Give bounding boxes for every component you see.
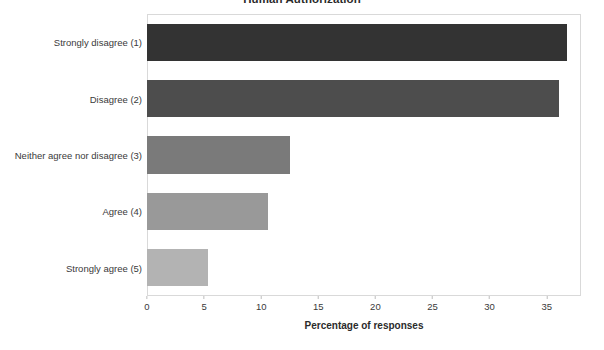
x-axis-tick-label: 30 [484, 301, 495, 312]
x-axis-tick-25: 25 [427, 296, 438, 312]
y-axis-label-2: Disagree (2) [0, 93, 142, 104]
x-axis-ticks: 05101520253035 [147, 296, 581, 316]
bar-row [147, 193, 581, 230]
bar-series [147, 14, 581, 296]
tick-mark-icon [432, 296, 433, 299]
bar-row [147, 24, 581, 61]
x-axis-tick-label: 5 [201, 301, 206, 312]
bar-2 [147, 80, 559, 117]
bar-row [147, 249, 581, 286]
y-axis-label-3: Neither agree nor disagree (3) [0, 150, 142, 161]
x-axis-tick-label: 35 [541, 301, 552, 312]
bar-4 [147, 193, 268, 230]
chart-title: Human Authorization [0, 0, 604, 5]
tick-mark-icon [489, 296, 490, 299]
x-axis-tick-label: 10 [256, 301, 267, 312]
tick-mark-icon [204, 296, 205, 299]
bar-5 [147, 249, 208, 286]
x-axis-tick-10: 10 [256, 296, 267, 312]
x-axis-tick-label: 20 [370, 301, 381, 312]
x-axis-tick-20: 20 [370, 296, 381, 312]
bar-row [147, 80, 581, 117]
x-axis-title: Percentage of responses [147, 320, 581, 331]
y-axis-label-5: Strongly agree (5) [0, 262, 142, 273]
tick-mark-icon [318, 296, 319, 299]
x-axis-tick-label: 15 [313, 301, 324, 312]
x-axis-tick-label: 25 [427, 301, 438, 312]
bar-row [147, 136, 581, 173]
x-axis-tick-label: 0 [144, 301, 149, 312]
tick-mark-icon [146, 296, 147, 299]
x-axis-tick-0: 0 [144, 296, 149, 312]
tick-mark-icon [261, 296, 262, 299]
bar-1 [147, 24, 567, 61]
y-axis-label-1: Strongly disagree (1) [0, 37, 142, 48]
bar-3 [147, 136, 290, 173]
x-axis-tick-5: 5 [201, 296, 206, 312]
tick-mark-icon [375, 296, 376, 299]
x-axis-tick-30: 30 [484, 296, 495, 312]
x-axis-tick-35: 35 [541, 296, 552, 312]
y-axis-category-labels: Strongly disagree (1)Disagree (2)Neither… [0, 14, 142, 296]
chart-screenshot: Human Authorization Strongly disagree (1… [0, 0, 604, 350]
x-axis-tick-15: 15 [313, 296, 324, 312]
y-axis-label-4: Agree (4) [0, 206, 142, 217]
tick-mark-icon [546, 296, 547, 299]
